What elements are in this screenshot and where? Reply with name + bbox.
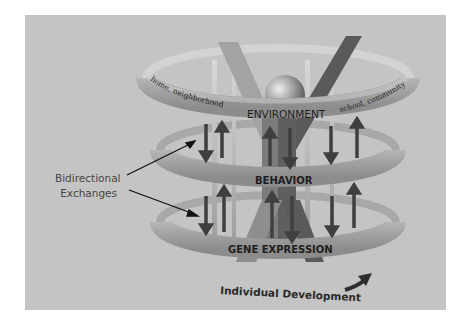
- ring-label-gene-expression: GENE EXPRESSION: [228, 244, 333, 255]
- timeline-label: Individual Development: [220, 284, 361, 303]
- callout-line-2: Exchanges: [55, 186, 117, 201]
- developmental-system-diagram: ENVIRONMENT home, neighborhood school, c…: [0, 0, 467, 329]
- callout-bidirectional-exchanges: Bidirectional Exchanges: [55, 171, 117, 201]
- development-arrow-icon: [345, 273, 372, 290]
- callout-line-1: Bidirectional: [55, 171, 117, 186]
- ring-label-behavior: BEHAVIOR: [255, 175, 313, 186]
- ring-label-environment: ENVIRONMENT: [247, 108, 326, 120]
